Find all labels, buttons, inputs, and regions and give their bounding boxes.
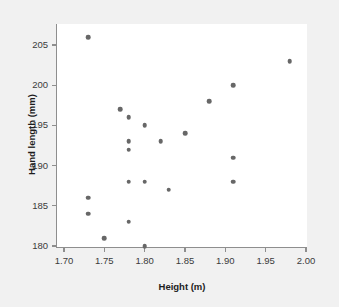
x-axis-tick: [265, 248, 266, 252]
scatter-plot-figure: 180185190195200205 1.701.751.801.851.901…: [0, 0, 339, 307]
data-point: [142, 179, 147, 184]
y-axis-tick: [52, 125, 56, 126]
x-axis-tick-label: 1.90: [205, 256, 245, 266]
x-axis-tick-label: 1.85: [165, 256, 205, 266]
x-axis-tick-label: 1.80: [125, 256, 165, 266]
x-axis-line: [56, 247, 307, 248]
y-axis-tick: [52, 85, 56, 86]
data-point: [118, 107, 123, 112]
x-axis-title: Height (m): [57, 281, 307, 292]
y-axis-tick: [52, 245, 56, 246]
x-axis-tick: [63, 248, 64, 252]
data-point: [126, 139, 131, 144]
y-axis-tick: [52, 44, 56, 45]
data-point: [142, 123, 147, 128]
data-point: [86, 212, 91, 217]
y-axis-title: Hand length (mm): [26, 23, 37, 246]
plot-area: [57, 24, 307, 247]
data-point: [126, 220, 131, 225]
x-axis-tick: [104, 248, 105, 252]
data-point: [183, 131, 188, 136]
data-point: [126, 147, 131, 152]
x-axis-tick-label: 1.75: [84, 256, 124, 266]
data-point: [231, 155, 236, 160]
data-point: [142, 244, 147, 249]
x-axis-tick: [144, 248, 145, 252]
data-point: [159, 139, 164, 144]
data-point: [207, 99, 212, 104]
data-point: [126, 179, 131, 184]
data-point: [167, 187, 172, 192]
x-axis-tick: [225, 248, 226, 252]
data-point: [126, 115, 131, 120]
x-axis-tick-label: 1.70: [44, 256, 84, 266]
data-point: [102, 236, 107, 241]
data-point: [231, 83, 236, 88]
data-point: [86, 195, 91, 200]
data-point: [86, 35, 91, 40]
x-axis-tick-label: 2.00: [286, 256, 326, 266]
x-axis-tick: [184, 248, 185, 252]
x-axis-tick-label: 1.95: [246, 256, 286, 266]
y-axis-tick: [52, 205, 56, 206]
data-point: [231, 179, 236, 184]
y-axis-line: [56, 24, 57, 248]
x-axis-tick: [305, 248, 306, 252]
data-point: [288, 59, 293, 64]
y-axis-tick: [52, 165, 56, 166]
